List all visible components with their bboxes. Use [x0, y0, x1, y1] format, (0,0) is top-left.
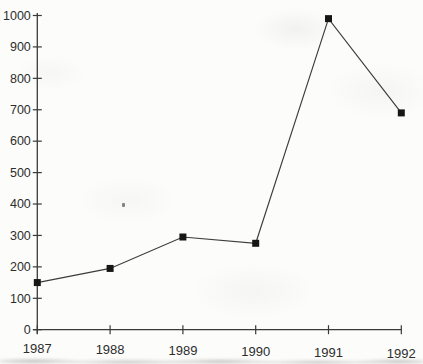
scan-speck-artifact [122, 203, 125, 207]
y-tick-label: 600 [10, 134, 31, 148]
data-point-marker [179, 234, 186, 241]
y-tick-label: 900 [10, 40, 31, 54]
y-tick-label: 700 [10, 103, 31, 117]
y-tick-label: 300 [10, 229, 31, 243]
x-tick-label: 1989 [168, 343, 197, 358]
data-point-marker [107, 265, 114, 272]
x-tick-label: 1987 [23, 341, 52, 356]
y-tick-label: 400 [10, 197, 31, 211]
y-tick-label: 500 [10, 166, 31, 180]
x-tick-label: 1988 [96, 342, 125, 357]
data-point-marker [398, 109, 405, 116]
y-tick-label: 100 [10, 292, 31, 306]
x-tick-label: 1990 [241, 344, 270, 359]
scanned-chart-page: 0100200300400500600700800900100019871988… [0, 0, 423, 364]
line-chart: 0100200300400500600700800900100019871988… [0, 0, 423, 364]
data-point-marker [34, 279, 41, 286]
data-point-marker [325, 15, 332, 22]
data-point-marker [252, 240, 259, 247]
y-tick-label: 800 [10, 72, 31, 86]
y-tick-label: 1000 [3, 9, 31, 23]
y-tick-label: 0 [24, 323, 31, 337]
y-tick-label: 200 [10, 260, 31, 274]
data-line [37, 19, 401, 283]
x-tick-label: 1992 [387, 346, 416, 361]
x-tick-label: 1991 [314, 345, 343, 360]
